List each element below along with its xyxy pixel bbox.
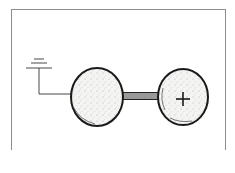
figure-caption xyxy=(0,159,235,171)
figure-diagram xyxy=(0,0,235,173)
ground-wire xyxy=(39,68,71,94)
ground-icon xyxy=(26,59,52,68)
left-sphere xyxy=(71,68,123,126)
connecting-rod xyxy=(120,92,160,100)
right-sphere xyxy=(158,69,208,125)
